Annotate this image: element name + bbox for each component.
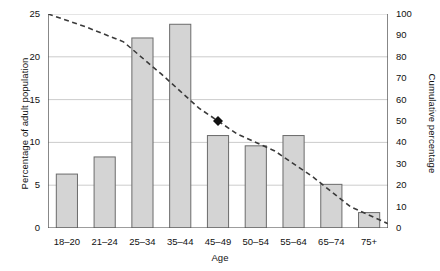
y-left-tick-label: 10 [10,136,40,147]
x-axis-title: Age [0,252,440,263]
bar [207,136,228,228]
bar [283,136,304,228]
x-category-label: 75+ [350,236,388,247]
y-axis-right-title: Cumulative percentage [427,44,438,204]
bar [170,24,191,228]
y-right-tick-label: 10 [396,201,426,212]
bar [94,157,115,228]
y-right-tick-label: 30 [396,158,426,169]
bar [132,38,153,228]
x-category-label: 50–54 [237,236,275,247]
bar [321,184,342,228]
cumulative-median-marker [213,116,223,126]
y-left-tick-label: 20 [10,51,40,62]
y-right-tick-label: 50 [396,115,426,126]
y-right-tick-label: 60 [396,94,426,105]
x-category-label: 21–24 [86,236,124,247]
x-category-label: 35–44 [161,236,199,247]
bar [56,174,77,228]
x-category-label: 55–64 [275,236,313,247]
bar [245,146,266,228]
x-category-label: 18–20 [48,236,86,247]
y-left-tick-label: 25 [10,8,40,19]
y-right-tick-label: 20 [396,179,426,190]
x-category-label: 65–74 [312,236,350,247]
y-left-tick-label: 5 [10,179,40,190]
diamond-marker [213,116,223,126]
y-right-tick-label: 70 [396,72,426,83]
y-left-tick-label: 0 [10,222,40,233]
plot-svg [48,14,388,228]
y-right-tick-label: 90 [396,29,426,40]
chart-figure: Percentage of adult population Cumulativ… [0,0,440,271]
y-right-tick-label: 80 [396,51,426,62]
bar-series [56,24,379,228]
y-right-tick-label: 0 [396,222,426,233]
y-right-tick-label: 40 [396,136,426,147]
plot-area [48,14,388,228]
x-category-label: 45–49 [199,236,237,247]
y-right-tick-label: 100 [396,8,426,19]
y-left-tick-label: 15 [10,94,40,105]
x-category-label: 25–34 [124,236,162,247]
